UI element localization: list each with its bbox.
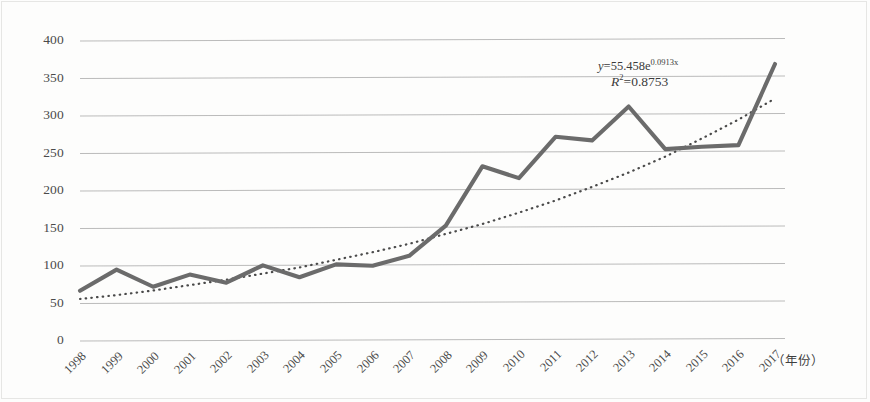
x-axis-title: （年份） [772, 350, 824, 369]
r-squared-equals: = [624, 74, 632, 89]
y-axis-tick-label: 400 [22, 32, 64, 48]
gridline [80, 226, 785, 229]
r-squared-annotation: R2=0.8753 [611, 72, 668, 90]
gridline [80, 264, 785, 267]
r-squared-symbol: R [611, 74, 619, 89]
y-axis-tick-label: 100 [22, 257, 64, 273]
gridline [80, 151, 785, 154]
gridline [80, 189, 785, 192]
y-axis-tick-label: 300 [22, 107, 64, 123]
y-axis-tick-label: 50 [22, 295, 64, 311]
chart-figure: 050100150200250300350400 199819992000200… [0, 0, 870, 402]
y-axis-tick-label: 250 [22, 145, 64, 161]
gridline [80, 114, 785, 117]
equation-exponent: 0.0913x [651, 57, 679, 67]
y-axis-tick-label: 150 [22, 220, 64, 236]
gridline [80, 339, 785, 342]
gridline [80, 39, 785, 42]
gridline [80, 76, 785, 79]
y-axis-tick-label: 350 [22, 70, 64, 86]
y-axis-tick-label: 0 [22, 332, 64, 348]
data-series-line [80, 64, 775, 291]
r-squared-value: 0.8753 [631, 74, 668, 89]
gridline-group [80, 39, 785, 342]
chart-plot-area [0, 0, 870, 402]
gridline [80, 301, 785, 304]
equation-equals: = [604, 59, 611, 73]
y-axis-tick-label: 200 [22, 182, 64, 198]
trendline-path [80, 99, 775, 300]
